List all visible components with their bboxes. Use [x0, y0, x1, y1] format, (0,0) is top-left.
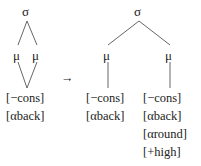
right-seg2-feature-cons: [−cons]	[143, 91, 181, 105]
right-seg2-feature-high: [+high]	[143, 145, 181, 159]
left-feature-back: [αback]	[6, 109, 44, 123]
line-right-sigma-mu2	[139, 21, 170, 45]
line-left-mu1-seg	[18, 62, 27, 88]
line-right-sigma-mu1	[108, 21, 139, 45]
line-left-mu2-seg	[27, 62, 37, 88]
left-feature-cons: [−cons]	[6, 91, 44, 105]
left-mora-2: μ	[32, 49, 39, 63]
right-seg1-feature-back: [αback]	[86, 109, 124, 123]
left-sigma-node: σ	[22, 5, 29, 19]
line-left-sigma-mu1	[18, 21, 27, 45]
right-seg2-feature-back: [αback]	[143, 109, 181, 123]
right-sigma-node: σ	[134, 5, 141, 19]
right-mora-1: μ	[103, 49, 110, 63]
right-seg1-feature-cons: [−cons]	[86, 91, 124, 105]
arrow-icon: →	[61, 71, 74, 85]
tree-lines	[0, 0, 201, 166]
line-left-sigma-mu2	[27, 21, 37, 45]
right-mora-2: μ	[165, 49, 172, 63]
left-mora-1: μ	[13, 49, 20, 63]
right-seg2-feature-round: [αround]	[143, 127, 187, 141]
